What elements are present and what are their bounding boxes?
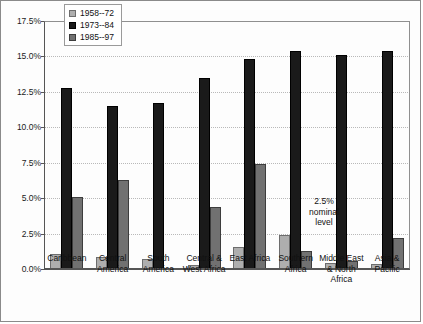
bar-group [44, 21, 90, 269]
y-axis-tick-mark [41, 234, 44, 235]
bar-group [364, 21, 410, 269]
bar [244, 59, 255, 269]
bar-group [273, 21, 319, 269]
y-axis-tick-label: 7.5% [3, 158, 41, 168]
bar [153, 103, 164, 269]
bar [107, 106, 118, 269]
y-axis-tick-label: 0.0% [3, 264, 41, 274]
y-axis-tick-mark [41, 56, 44, 57]
y-axis-tick-mark [41, 92, 44, 93]
x-axis-tick-label: Asia &Pacific [360, 253, 414, 274]
y-axis-tick-mark [41, 127, 44, 128]
annotation-line: level [301, 217, 347, 228]
chart-legend: 1958--721973--841985--97 [64, 4, 122, 46]
y-axis-tick-label: 15.0% [3, 51, 41, 61]
bar-group [136, 21, 182, 269]
legend-swatch-icon [69, 10, 76, 17]
y-axis-tick-label: 5.0% [3, 193, 41, 203]
x-axis-label-line: Pacific [360, 264, 414, 275]
bar [382, 51, 393, 269]
bar-group [181, 21, 227, 269]
bar [336, 55, 347, 269]
y-axis-tick-label: 2.5% [3, 229, 41, 239]
bar-group [90, 21, 136, 269]
plot-area [44, 21, 410, 269]
x-axis-label-line: Asia & [360, 253, 414, 264]
y-axis-tick-mark [41, 198, 44, 199]
bar-group [319, 21, 365, 269]
legend-item: 1958--72 [69, 8, 114, 18]
bar [61, 88, 72, 269]
legend-item: 1973--84 [69, 20, 114, 30]
legend-label: 1973--84 [80, 20, 114, 30]
bar-group [227, 21, 273, 269]
legend-swatch-icon [69, 22, 76, 29]
legend-label: 1958--72 [80, 8, 114, 18]
bar [290, 51, 301, 269]
x-axis-label-line: Africa [315, 274, 369, 285]
legend-item: 1985--97 [69, 32, 114, 42]
legend-label: 1985--97 [80, 32, 114, 42]
y-axis-tick-label: 12.5% [3, 87, 41, 97]
bar [199, 78, 210, 269]
y-axis-tick-mark [41, 269, 44, 270]
nominal-level-annotation: 2.5%nominallevel [301, 196, 347, 228]
chart-figure: 0.0%2.5%5.0%7.5%10.0%12.5%15.0%17.5% Car… [0, 0, 421, 322]
y-axis-tick-label: 10.0% [3, 122, 41, 132]
y-axis-tick-mark [41, 163, 44, 164]
x-axis-label-line: West Africa [177, 264, 231, 275]
y-axis-tick-mark [41, 21, 44, 22]
annotation-line: nominal [301, 207, 347, 218]
legend-swatch-icon [69, 34, 76, 41]
y-axis-tick-label: 17.5% [3, 16, 41, 26]
annotation-line: 2.5% [301, 196, 347, 207]
